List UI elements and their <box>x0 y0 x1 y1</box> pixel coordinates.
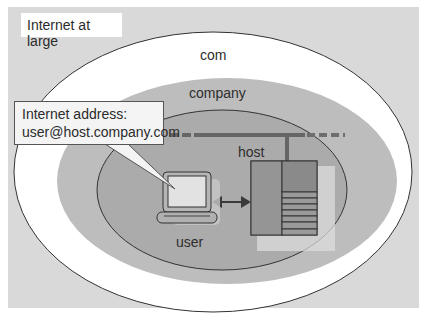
server-rack-icon <box>251 161 335 251</box>
company-label: company <box>189 85 246 101</box>
internet-at-large-label-box: Internet at large <box>21 13 122 37</box>
user-label: user <box>176 234 203 250</box>
internet-at-large-label: Internet at large <box>27 17 122 49</box>
host-label: host <box>238 144 264 160</box>
internet-domain-diagram: Internet at large com company host user … <box>0 0 427 327</box>
com-label: com <box>200 47 226 63</box>
callout-heading: Internet address: <box>22 106 127 122</box>
laptop-icon <box>157 172 220 225</box>
internet-address-callout: Internet address: user@host.company.com <box>14 101 164 145</box>
callout-address: user@host.company.com <box>22 124 180 140</box>
